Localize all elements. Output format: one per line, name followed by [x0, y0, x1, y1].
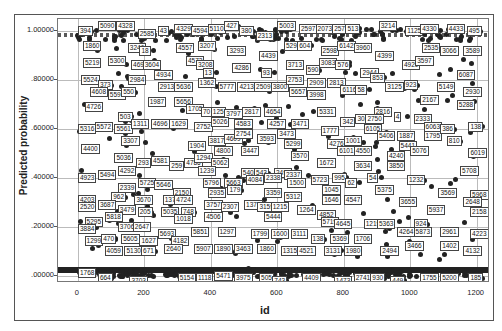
- data-point: [321, 272, 326, 277]
- point-label: 2339: [118, 183, 136, 193]
- data-point: [214, 70, 219, 75]
- point-label: 550: [121, 87, 136, 97]
- point-label: 2753: [286, 75, 304, 85]
- point-label: 4292: [118, 166, 136, 176]
- point-label: 5299: [284, 139, 302, 149]
- point-label: 4724: [174, 195, 192, 205]
- point-label: 3359: [264, 188, 282, 198]
- point-label: 664: [98, 273, 113, 282]
- point-label: 5605: [121, 234, 139, 244]
- data-point: [183, 74, 188, 79]
- point-label: 5288: [457, 100, 475, 110]
- point-label: 3604: [143, 60, 161, 70]
- point-label: 5494: [98, 170, 116, 180]
- point-label: 138: [468, 122, 483, 132]
- point-label: 4506: [204, 212, 222, 222]
- point-label: 2961: [440, 227, 458, 237]
- point-label: 2647: [133, 222, 151, 232]
- point-label: 2750: [365, 114, 383, 124]
- point-label: 2307: [221, 202, 239, 212]
- point-label: 4439: [259, 51, 277, 61]
- data-point: [215, 100, 220, 105]
- point-label: 2158: [470, 207, 488, 217]
- point-label: 5149: [437, 82, 455, 92]
- point-label: 6087: [457, 70, 475, 80]
- data-point: [387, 268, 392, 273]
- data-point: [266, 268, 271, 273]
- point-label: 5331: [317, 107, 335, 117]
- point-label: 5646: [154, 180, 172, 190]
- data-point: [180, 108, 185, 113]
- point-label: 4583: [234, 119, 252, 129]
- point-label: 93: [261, 68, 272, 78]
- point-label: 5090: [98, 21, 116, 31]
- point-label: 1706: [354, 234, 372, 244]
- data-point: [281, 268, 286, 273]
- point-label: 3713: [286, 60, 304, 70]
- y-axis-label: Predicted probability: [18, 81, 29, 211]
- data-point: [437, 72, 442, 77]
- point-label: 1887: [397, 131, 415, 141]
- data-point: [164, 38, 169, 43]
- data-point: [442, 252, 447, 257]
- data-point: [448, 67, 453, 72]
- data-point: [381, 37, 386, 42]
- point-label: 2930: [463, 87, 481, 97]
- point-label: 4547: [344, 195, 362, 205]
- point-label: 4645: [334, 219, 352, 229]
- point-label: 5406: [377, 131, 395, 141]
- point-label: 4223: [470, 229, 488, 239]
- point-label: 2520: [78, 202, 96, 212]
- point-label: 4330: [420, 24, 438, 34]
- point-label: 1402: [440, 241, 458, 251]
- y-tick-label: .20000: [8, 221, 54, 230]
- point-label: 3307: [121, 136, 139, 146]
- point-label: 4433: [447, 24, 465, 34]
- point-label: 4521: [297, 246, 315, 256]
- data-point: [335, 267, 340, 272]
- point-label: 3998: [307, 90, 325, 100]
- data-point: [259, 120, 264, 125]
- y-tick-label: .80000: [8, 74, 54, 83]
- point-label: 4059: [105, 246, 123, 256]
- point-label: 2648: [463, 197, 481, 207]
- point-label: 4399: [375, 51, 393, 61]
- data-point: [418, 252, 423, 257]
- point-label: 3687: [98, 200, 116, 210]
- data-point: [137, 111, 142, 116]
- point-label: 5471: [214, 271, 232, 281]
- point-label: 5777: [218, 82, 236, 92]
- point-label: 3634: [354, 161, 372, 171]
- point-label: 5572: [95, 122, 113, 132]
- point-label: 4550: [354, 146, 372, 156]
- point-label: 3570: [291, 151, 309, 161]
- grid-line-vertical: [211, 19, 212, 281]
- point-label: 5300: [108, 56, 126, 66]
- point-label: 1980: [344, 246, 362, 256]
- point-label: 1264: [297, 205, 315, 215]
- point-label: 185: [468, 273, 483, 282]
- data-point: [120, 274, 125, 279]
- point-label: 138: [311, 234, 326, 244]
- point-label: 5375: [375, 185, 393, 195]
- point-label: 3293: [227, 46, 245, 56]
- point-label: 2585: [138, 29, 156, 39]
- data-point: [422, 107, 427, 112]
- point-label: 3471: [291, 119, 309, 129]
- y-tick-label: .40000: [8, 172, 54, 181]
- point-label: 4400: [81, 144, 99, 154]
- point-label: 54: [367, 173, 378, 183]
- point-label: 2817: [242, 107, 260, 117]
- data-point: [367, 87, 372, 92]
- point-label: 930: [370, 273, 385, 282]
- point-label: 3066: [440, 46, 458, 56]
- data-point: [437, 257, 442, 262]
- data-point: [469, 61, 474, 66]
- point-label: 5723: [311, 175, 329, 185]
- point-label: 1768: [78, 268, 96, 278]
- point-label: 4132: [463, 246, 481, 256]
- data-point: [445, 98, 450, 103]
- data-point: [128, 269, 133, 274]
- data-point: [369, 27, 374, 32]
- point-label: 3131: [324, 246, 342, 256]
